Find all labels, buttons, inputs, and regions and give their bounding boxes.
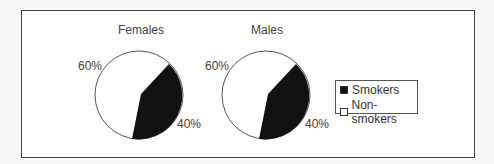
- males-smokers-pct: 40%: [305, 117, 329, 131]
- legend: Smokers Non-smokers: [335, 80, 418, 114]
- legend-item-smokers: Smokers: [340, 83, 399, 97]
- males-title: Males: [251, 23, 283, 37]
- pie-charts: [0, 0, 494, 164]
- non-smokers-swatch-icon: [340, 108, 348, 116]
- females-title: Females: [118, 23, 164, 37]
- legend-item-non-smokers: Non-smokers: [340, 98, 417, 126]
- pie-males: [222, 51, 310, 139]
- legend-label-non-smokers: Non-smokers: [352, 98, 418, 126]
- pie-females: [95, 51, 183, 139]
- females-smokers-pct: 40%: [177, 117, 201, 131]
- legend-label-smokers: Smokers: [352, 83, 399, 97]
- males-nonsmokers-pct: 60%: [205, 59, 229, 73]
- females-nonsmokers-pct: 60%: [78, 59, 102, 73]
- smokers-swatch-icon: [340, 86, 348, 94]
